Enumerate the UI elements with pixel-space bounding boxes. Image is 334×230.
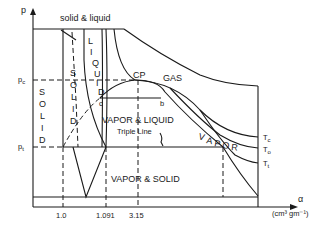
critical-point-label: CP bbox=[133, 70, 146, 80]
svg-text:A: A bbox=[206, 135, 214, 146]
gas-label: GAS bbox=[163, 73, 182, 83]
svg-text:L: L bbox=[40, 111, 45, 121]
phase-diagram: p solid & liquid pc pt S O L I D S O L I… bbox=[0, 0, 334, 230]
svg-text:L: L bbox=[88, 36, 93, 46]
vapor-solid-v bbox=[73, 147, 106, 197]
y-axis-label: p bbox=[21, 5, 26, 15]
svg-text:S: S bbox=[70, 68, 76, 78]
svg-text:D: D bbox=[70, 116, 77, 126]
pt-label: pt bbox=[18, 142, 24, 152]
svg-text:O: O bbox=[222, 140, 230, 151]
svg-text:O: O bbox=[70, 80, 77, 90]
liquid-boundary-2 bbox=[106, 29, 107, 147]
solid-right-label: S O L I D bbox=[70, 68, 77, 126]
svg-text:R: R bbox=[231, 142, 239, 153]
svg-text:S: S bbox=[39, 87, 45, 97]
svg-text:Q: Q bbox=[92, 58, 99, 68]
liquid-critical-curve bbox=[114, 29, 135, 80]
svg-text:I: I bbox=[41, 123, 44, 133]
vapor-solid-boundary bbox=[223, 147, 258, 196]
pc-label: pc bbox=[18, 75, 25, 85]
svg-text:I: I bbox=[90, 47, 93, 57]
isotherm-tt-label: Tt bbox=[263, 159, 270, 169]
x-axis-units: (cm³ gm⁻¹) bbox=[272, 209, 309, 218]
y-axis-arrow-icon bbox=[30, 8, 36, 15]
svg-text:D: D bbox=[39, 135, 46, 145]
triple-line-label: Triple Line bbox=[117, 127, 152, 136]
x-tick-315: 3.15 bbox=[129, 211, 144, 220]
vapor-label: V A P O R bbox=[197, 131, 238, 152]
isotherm-tc-label: Tc bbox=[263, 133, 271, 143]
vapor-solid-label: VAPOR & SOLID bbox=[111, 174, 180, 184]
dome-left-dashed bbox=[63, 98, 100, 147]
isotherm-tc bbox=[135, 80, 258, 137]
dome-left-solid bbox=[100, 80, 135, 98]
point-c-label: c bbox=[99, 99, 103, 108]
x-axis-label: α bbox=[298, 194, 303, 204]
x-tick-1091: 1.091 bbox=[96, 211, 115, 220]
x-tick-1: 1.0 bbox=[56, 211, 66, 220]
point-b-label: b bbox=[160, 99, 164, 108]
svg-text:O: O bbox=[39, 99, 46, 109]
svg-text:I: I bbox=[72, 104, 75, 114]
solid-left-label: S O L I D bbox=[39, 87, 46, 145]
vapor-liquid-label: VAPOR & LIQUID bbox=[102, 115, 174, 125]
svg-text:V: V bbox=[197, 131, 205, 142]
solid-liquid-label: solid & liquid bbox=[60, 13, 111, 23]
svg-text:D: D bbox=[98, 87, 105, 97]
triple-line-leader bbox=[160, 133, 163, 146]
isotherm-to-label: To bbox=[263, 145, 272, 155]
svg-text:L: L bbox=[71, 92, 76, 102]
